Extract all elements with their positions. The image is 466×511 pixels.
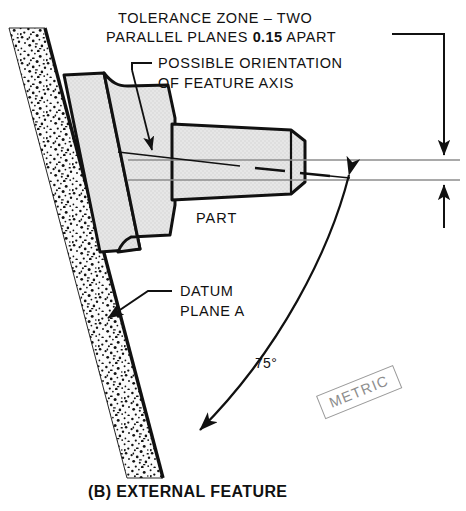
part-shaft bbox=[172, 124, 305, 200]
tolerance-zone-note-prefix: PARALLEL PLANES bbox=[106, 29, 253, 45]
part-body bbox=[64, 73, 305, 252]
datum-plane-note-line2: PLANE A bbox=[180, 303, 245, 320]
tolerance-zone-note-suffix: APART bbox=[282, 29, 336, 45]
technical-drawing-figure: TOLERANCE ZONE – TWO PARALLEL PLANES 0.1… bbox=[0, 0, 466, 511]
datum-plane-note-line1: DATUM bbox=[180, 283, 233, 300]
figure-caption: (B) EXTERNAL FEATURE bbox=[88, 483, 287, 501]
tolerance-zone-leader bbox=[392, 34, 444, 228]
tolerance-zone-value: 0.15 bbox=[253, 29, 283, 45]
possible-orientation-note-line1: POSSIBLE ORIENTATION bbox=[158, 55, 343, 72]
possible-orientation-note-line2: OF FEATURE AXIS bbox=[158, 75, 294, 92]
tolerance-zone-note-line2: PARALLEL PLANES 0.15 APART bbox=[106, 29, 336, 46]
part-label: PART bbox=[196, 210, 237, 227]
basic-angle-label: 75° bbox=[255, 355, 277, 371]
tolerance-zone-note-line1: TOLERANCE ZONE – TWO bbox=[118, 10, 312, 27]
